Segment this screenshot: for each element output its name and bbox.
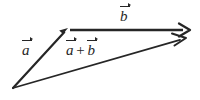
vector-b-glyph: b (120, 9, 128, 24)
resultant-a-glyph: a (66, 43, 74, 58)
vector-a-glyph: a (22, 43, 30, 58)
vector-addition-figure: a b a + b (0, 0, 200, 100)
overarrow-tip-icon (74, 37, 77, 41)
vector-a-shaft (13, 32, 64, 88)
resultant-b-glyph: b (87, 43, 95, 58)
overarrow-tip-icon (128, 3, 131, 7)
vector-b-label: b (120, 4, 128, 24)
vector-a-arrow (13, 28, 68, 88)
vector-a-plus-b-shaft (13, 40, 180, 88)
vector-b-overarrow-group: b (120, 4, 128, 24)
resultant-b-overarrow-group: b (87, 38, 95, 58)
vector-a-arrowhead (59, 28, 68, 34)
resultant-label: a + b (66, 38, 95, 58)
overarrow-tip-icon (30, 37, 33, 41)
vector-a-label: a (22, 38, 30, 58)
plus-operator: + (74, 43, 88, 58)
vector-diagram-canvas (0, 0, 200, 100)
resultant-a-overarrow-group: a (66, 38, 74, 58)
overarrow-tip-icon (95, 37, 98, 41)
vector-a-overarrow-group: a (22, 38, 30, 58)
